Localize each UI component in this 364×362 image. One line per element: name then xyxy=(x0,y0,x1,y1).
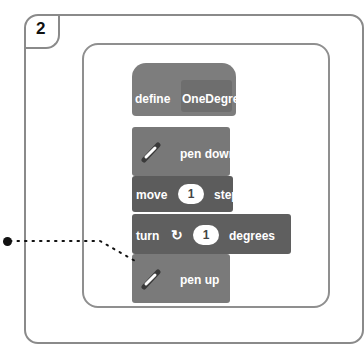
callout-leader-line xyxy=(0,0,346,362)
